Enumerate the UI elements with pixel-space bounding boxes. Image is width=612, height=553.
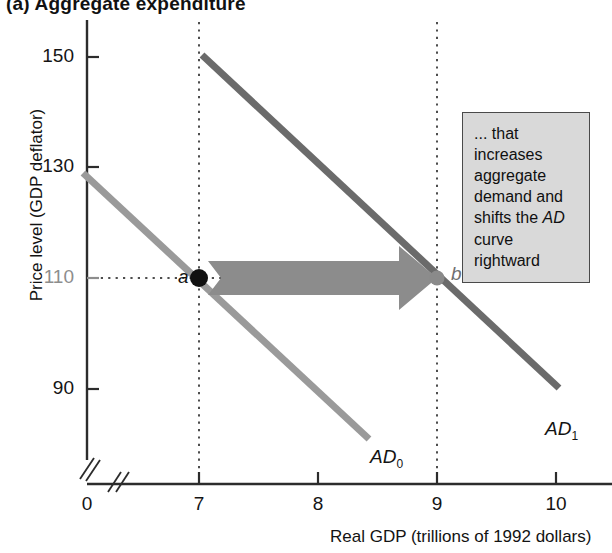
callout-text-emphasis: AD: [542, 209, 564, 226]
callout-box: ... that increases aggregate demand and …: [462, 112, 590, 283]
x-tick-label-7: 7: [179, 493, 219, 515]
point-a-marker: [190, 269, 208, 287]
x-tick-label-9: 9: [417, 493, 457, 515]
point-a-label: a: [178, 266, 189, 288]
x-tick-label-10: 10: [536, 493, 576, 515]
y-tick-label-130: 130: [18, 155, 74, 177]
x-tick-label-0: 0: [67, 493, 107, 515]
curve-label-ad0-subscript: 0: [396, 457, 403, 471]
curve-label-ad1-text: AD: [545, 418, 571, 439]
point-b-label: b: [451, 263, 462, 285]
curve-label-ad0-text: AD: [370, 446, 396, 467]
curve-label-ad0: AD0: [370, 446, 403, 471]
callout-text-after: curve rightward: [474, 231, 540, 269]
y-tick-label-150: 150: [18, 45, 74, 67]
y-tick-label-90: 90: [18, 377, 74, 399]
curve-label-ad1-subscript: 1: [571, 429, 578, 443]
y-tick-label-110: 110: [18, 266, 74, 288]
x-axis-title: Real GDP (trillions of 1992 dollars): [330, 527, 591, 547]
x-axis-break-icon: [108, 472, 129, 492]
y-axis-break-icon: [80, 458, 100, 481]
curve-ad0: [83, 173, 369, 439]
x-tick-label-8: 8: [298, 493, 338, 515]
figure-container: (a) Aggregate expenditure: [0, 0, 612, 553]
shift-arrow-icon: [208, 246, 437, 310]
point-b-marker: [430, 271, 445, 286]
curve-label-ad1: AD1: [545, 418, 578, 443]
